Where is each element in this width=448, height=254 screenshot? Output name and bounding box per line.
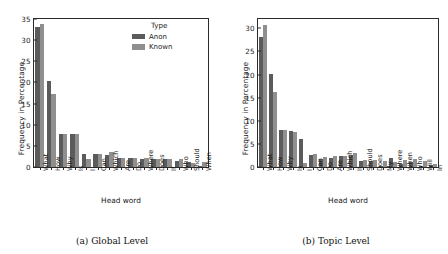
y-axis-tick-label: 10	[21, 120, 34, 129]
bar-group	[369, 19, 377, 167]
y-axis-tick-label: 15	[21, 99, 34, 108]
x-axis-tick-mark	[156, 167, 157, 170]
x-axis-tick-label: What	[42, 153, 50, 170]
x-axis-tick-mark	[86, 167, 87, 170]
y-axis-tick-label: 20	[245, 70, 258, 79]
x-axis-tick-mark	[363, 167, 364, 170]
x-axis-tick-label: Who	[182, 156, 190, 171]
bar-group	[399, 19, 407, 167]
bar-group	[186, 19, 195, 167]
y-axis-tick-mark	[258, 51, 261, 52]
axes-box-topic-level: 051015202530WhatHowWhyIsICanDoAreWhichIf…	[257, 18, 439, 168]
legend-entry-anon: Anon	[132, 33, 172, 41]
y-axis-tick-mark	[258, 97, 261, 98]
y-axis-tick-label: 35	[21, 15, 34, 24]
x-axis-tick-mark	[373, 167, 374, 170]
x-axis-tick-label: When	[205, 152, 213, 171]
bar-known	[75, 134, 79, 167]
x-axis-tick-label: How	[54, 156, 62, 170]
x-axis-tick-mark	[303, 167, 304, 170]
bar-group	[198, 19, 207, 167]
x-axis-tick-mark	[293, 167, 294, 170]
legend-label-anon: Anon	[149, 33, 167, 41]
x-axis-tick-label: Why	[66, 156, 74, 171]
y-axis-tick-label: 15	[245, 93, 258, 102]
bar-group	[105, 19, 114, 167]
x-axis-tick-mark	[323, 167, 324, 170]
bar-group	[93, 19, 102, 167]
x-axis-tick-mark	[313, 167, 314, 170]
y-axis-tick-mark	[34, 40, 37, 41]
x-axis-tick-mark	[63, 167, 64, 170]
x-axis-tick-mark	[75, 167, 76, 170]
y-axis-tick-mark	[258, 28, 261, 29]
x-axis-tick-mark	[353, 167, 354, 170]
bar-group	[359, 19, 367, 167]
x-axis-tick-mark	[98, 167, 99, 170]
bars-container-global-level	[34, 19, 208, 167]
x-axis-tick-mark	[273, 167, 274, 170]
bar-group	[82, 19, 91, 167]
x-axis-tick-label: Does	[158, 154, 166, 171]
y-axis-tick-label: 30	[21, 36, 34, 45]
bar-group	[269, 19, 277, 167]
y-axis-tick-label: 30	[245, 24, 258, 33]
x-axis-title: Head word	[33, 196, 209, 205]
y-axis-tick-label: 0	[26, 163, 34, 172]
legend-entry-known: Known	[132, 43, 172, 51]
x-axis-tick-label: Should	[193, 148, 201, 171]
x-axis-tick-mark	[393, 167, 394, 170]
bar-group	[35, 19, 44, 167]
panel-caption-topic-level: (b) Topic Level	[224, 236, 448, 246]
axes-box-global-level: 05101520253035WhatHowWhyIsICanWhichAreDo…	[33, 18, 209, 168]
x-axis-tick-label: Which	[112, 150, 120, 170]
y-axis-tick-label: 5	[26, 141, 34, 150]
y-axis-tick-mark	[34, 124, 37, 125]
x-axis-tick-mark	[333, 167, 334, 170]
bar-group	[70, 19, 79, 167]
plot-area-global-level: Frequency in Percentage 05101520253035Wh…	[0, 0, 224, 215]
bar-known	[40, 24, 44, 167]
panel-global-level: Frequency in Percentage 05101520253035Wh…	[0, 0, 224, 254]
legend-swatch-known	[132, 44, 145, 50]
legend-swatch-anon	[132, 34, 145, 40]
x-axis-tick-mark	[121, 167, 122, 170]
y-axis-tick-mark	[34, 145, 37, 146]
x-axis-tick-mark	[433, 167, 434, 170]
y-axis-title: Frequency in Percentage	[241, 34, 250, 184]
y-axis-tick-mark	[34, 103, 37, 104]
bar-group	[279, 19, 287, 167]
y-axis-tick-mark	[258, 120, 261, 121]
bar-group	[289, 19, 297, 167]
x-axis-tick-mark	[133, 167, 134, 170]
y-axis-tick-label: 0	[250, 163, 258, 172]
x-axis-tick-mark	[202, 167, 203, 170]
bar-group	[389, 19, 397, 167]
y-axis-tick-mark	[34, 167, 37, 168]
bar-group	[59, 19, 68, 167]
bar-group	[175, 19, 184, 167]
panel-caption-global-level: (a) Global Level	[0, 236, 224, 246]
bar-group	[349, 19, 357, 167]
x-axis-tick-label: Are	[124, 159, 132, 170]
x-axis-tick-mark	[413, 167, 414, 170]
bar-known	[86, 159, 90, 167]
panel-topic-level: Frequency in Percentage 051015202530What…	[224, 0, 448, 254]
bar-known	[263, 25, 267, 167]
y-axis-tick-label: 25	[245, 47, 258, 56]
y-axis-tick-mark	[258, 143, 261, 144]
x-axis-tick-mark	[40, 167, 41, 170]
y-axis-tick-label: 25	[21, 57, 34, 66]
bar-group	[117, 19, 126, 167]
x-axis-tick-mark	[423, 167, 424, 170]
bar-group	[47, 19, 56, 167]
bar-group	[429, 19, 437, 167]
x-axis-tick-mark	[51, 167, 52, 170]
x-axis-tick-label: Do	[135, 161, 143, 170]
legend-title: Type	[132, 21, 172, 30]
x-axis-tick-mark	[343, 167, 344, 170]
x-axis-tick-label: Can	[100, 158, 108, 171]
x-axis-tick-mark	[383, 167, 384, 170]
bar-group	[409, 19, 417, 167]
x-axis-tick-label: I	[89, 169, 97, 171]
